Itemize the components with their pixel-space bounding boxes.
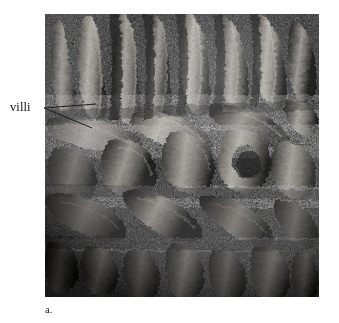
- micrograph-canvas: [45, 14, 319, 297]
- sem-micrograph-image: [45, 14, 319, 297]
- figure-part-caption: a.: [45, 304, 52, 315]
- villi-annotation-label: villi: [10, 101, 31, 114]
- figure-root: villi a.: [0, 0, 339, 323]
- micrograph-noise: [45, 14, 319, 297]
